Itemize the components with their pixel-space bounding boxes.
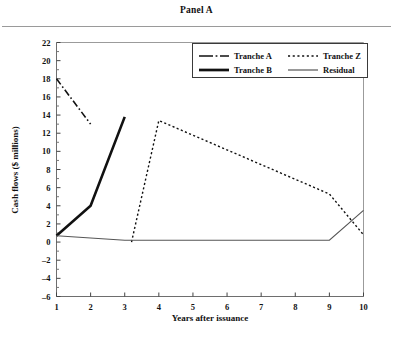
legend-label-residual: Residual	[323, 65, 355, 75]
y-tick-label: –2	[41, 255, 51, 265]
x-tick-label: 3	[123, 302, 127, 312]
y-axis-title: Cash flows ($ millions)	[10, 126, 20, 213]
x-tick-label: 4	[157, 302, 162, 312]
series-line-tranche-b	[57, 117, 125, 236]
y-tick-label: 14	[42, 110, 51, 120]
y-tick-label: 18	[42, 74, 51, 84]
y-tick-label: 0	[46, 237, 50, 247]
y-tick-label: 6	[46, 183, 50, 193]
chart-canvas: –6–4–20246810121416182022 12345678910 Ye…	[0, 0, 393, 342]
legend-label-tranche-b: Tranche B	[234, 65, 272, 75]
x-tick-label: 1	[54, 302, 58, 312]
x-tick-label: 8	[293, 302, 297, 312]
plot-frame	[57, 43, 364, 297]
figure-panel-a: Panel A –6–4–20246810121416182022 123456…	[0, 0, 393, 342]
x-axis: 12345678910	[54, 293, 367, 312]
x-tick-label: 10	[359, 302, 368, 312]
y-axis: –6–4–20246810121416182022	[41, 38, 61, 302]
series-line-residual	[57, 210, 364, 240]
x-tick-label: 9	[327, 302, 331, 312]
y-tick-label: 4	[46, 201, 51, 211]
x-tick-label: 5	[191, 302, 195, 312]
y-tick-label: –4	[41, 273, 51, 283]
legend-label-tranche-z: Tranche Z	[323, 51, 361, 61]
y-tick-label: 12	[42, 128, 51, 138]
y-tick-label: 8	[46, 165, 50, 175]
y-tick-label: 10	[42, 146, 51, 156]
y-tick-label: 16	[42, 92, 51, 102]
legend-label-tranche-a: Tranche A	[234, 51, 273, 61]
y-tick-label: 22	[42, 38, 51, 48]
y-tick-label: –6	[41, 292, 51, 302]
x-axis-title: Years after issuance	[172, 313, 248, 323]
y-tick-label: 2	[46, 219, 50, 229]
x-tick-label: 2	[88, 302, 92, 312]
x-tick-label: 6	[225, 302, 229, 312]
x-tick-label: 7	[259, 302, 264, 312]
chart-legend: Tranche ATranche ZTranche BResidual	[193, 44, 368, 78]
series-line-tranche-z	[132, 121, 364, 243]
y-tick-label: 20	[42, 56, 51, 66]
data-series-group	[57, 79, 364, 242]
series-line-tranche-a	[57, 79, 91, 124]
